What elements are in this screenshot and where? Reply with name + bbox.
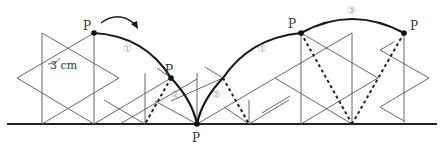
arc-label-5: ③ <box>347 5 356 16</box>
star-shape-5 <box>380 33 429 124</box>
label-p-2: P <box>165 63 173 77</box>
locus-arc-1 <box>94 33 171 78</box>
arc-label-3: ② <box>212 89 221 100</box>
radius-dashed-3 <box>301 33 352 124</box>
point-p-1 <box>91 30 97 36</box>
star-shape-1 <box>17 33 119 124</box>
label-p-1: P <box>83 19 91 33</box>
arc-label-1: ① <box>123 43 132 54</box>
radius-dashed-2 <box>223 78 249 124</box>
star-shape-3 <box>171 67 289 124</box>
arc-label-4: ① <box>258 43 267 54</box>
rotation-arrow-icon <box>101 17 138 29</box>
label-p-5: P <box>410 19 418 33</box>
label-p-4: P <box>288 17 296 31</box>
locus-arc-1b <box>223 33 301 78</box>
star-shape-4 <box>262 33 378 124</box>
point-p-4 <box>298 30 304 36</box>
rolling-figure-diagram: P P P P P ① ② ② ① ③ 3 cm <box>0 0 441 148</box>
point-p-3 <box>194 121 200 127</box>
measurement-label: 3 cm <box>50 59 78 72</box>
radius-dashed-1 <box>145 78 171 124</box>
locus-arc-3 <box>301 19 404 33</box>
point-p-5 <box>401 30 407 36</box>
label-p-3: P <box>192 131 200 145</box>
arc-label-2: ② <box>171 89 180 100</box>
locus-arc-2b <box>197 78 223 124</box>
